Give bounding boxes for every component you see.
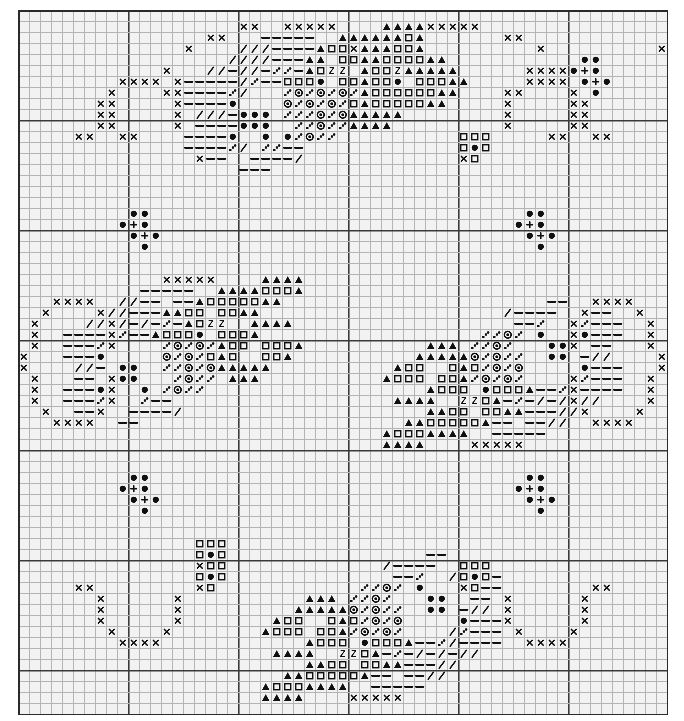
pattern-grid-canvas[interactable]: [18, 10, 668, 715]
cross-stitch-chart: [18, 10, 668, 715]
